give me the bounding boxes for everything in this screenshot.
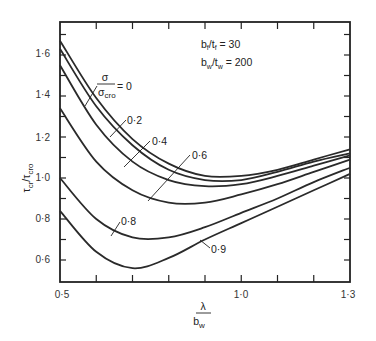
- x-tick-1.0: 1·0: [234, 289, 249, 300]
- label-sigma-ratio-0.9: 0·9: [200, 240, 226, 255]
- y-tick-0.6: 0·6: [36, 254, 51, 265]
- y-tick-1.2: 1·2: [36, 132, 51, 143]
- param-bf-tf: bf/tf = 30: [201, 38, 240, 51]
- svg-text:0·2: 0·2: [127, 114, 142, 126]
- svg-text:0·6: 0·6: [192, 149, 207, 161]
- label-sigma-ratio-0.8: 0·8: [111, 215, 136, 236]
- x-label-denominator: bw: [193, 315, 205, 330]
- y-axis-label: τcr/τcro: [20, 163, 35, 193]
- y-tick-1.0: 1·0: [36, 172, 51, 183]
- svg-text:0·4: 0·4: [152, 135, 167, 147]
- x-tick-1.3: 1·3: [341, 289, 356, 300]
- param-bw-tw: bw/tw = 200: [201, 56, 252, 70]
- y-tick-1.4: 1·4: [36, 89, 51, 100]
- x-tick-0.5: 0·5: [55, 289, 70, 300]
- x-axis-label: λ bw: [193, 300, 211, 330]
- curve-series-5: [60, 174, 350, 268]
- svg-text:σ: σ: [102, 71, 109, 83]
- label-sigma-ratio-0.4: 0·4: [124, 135, 167, 167]
- svg-text:0·8: 0·8: [121, 215, 136, 227]
- y-tick-1.6: 1·6: [36, 48, 51, 59]
- svg-text:τcr/τcro: τcr/τcro: [20, 163, 35, 193]
- svg-text:= 0: = 0: [117, 80, 132, 92]
- chart: 1·6 1·4 1·2 1·0 0·8 0·6 0·5 1·0 1·3 λ bw…: [0, 0, 376, 341]
- svg-text:0·9: 0·9: [211, 243, 226, 255]
- svg-text:σcro: σcro: [98, 86, 116, 100]
- y-tick-0.8: 0·8: [36, 213, 51, 224]
- curve-series-4: [60, 168, 350, 240]
- x-label-numerator: λ: [200, 300, 206, 312]
